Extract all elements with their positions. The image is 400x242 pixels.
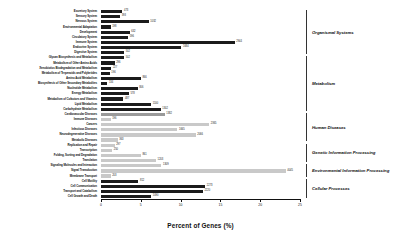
group-brackets: Organismal SystemsMetabolismHuman Diseas… xyxy=(306,9,400,199)
bar-value-label: 134 xyxy=(109,82,113,85)
bar-value-label: 296 xyxy=(116,62,120,65)
group-label: Genetic Information Processing xyxy=(312,150,375,155)
x-axis-tick xyxy=(181,199,182,202)
bar xyxy=(101,51,124,54)
bar-value-label: 1665 xyxy=(179,129,185,132)
bar-value-label: 250 xyxy=(114,149,118,152)
bar-rows: 4733931032198632596294416845025022962271… xyxy=(101,9,300,199)
bar xyxy=(101,15,120,18)
group-label: Metabolism xyxy=(312,81,335,86)
group-label: Human Diseases xyxy=(312,125,346,130)
bar xyxy=(101,138,118,141)
x-axis-tick xyxy=(141,199,142,202)
bar xyxy=(101,103,151,106)
bracket-line xyxy=(306,56,307,110)
group-bracket-item: Human Diseases xyxy=(306,113,346,142)
bar-value-label: 198 xyxy=(112,26,116,29)
bar xyxy=(101,144,115,147)
bar-value-label: 4045 xyxy=(287,170,293,173)
bar xyxy=(101,174,111,177)
group-bracket-item: Genetic Information Processing xyxy=(306,144,375,163)
x-axis-tick xyxy=(220,199,221,202)
bar-value-label: 2365 xyxy=(211,123,217,126)
bracket-line xyxy=(306,10,307,54)
bar xyxy=(101,72,110,75)
bar xyxy=(101,185,205,188)
bar-value-label: 861 xyxy=(142,154,146,157)
x-axis-tick-label: 0 xyxy=(100,203,102,207)
bar xyxy=(101,77,141,80)
bar xyxy=(101,149,112,152)
bar xyxy=(101,159,156,162)
bar-value-label: 393 xyxy=(122,15,126,18)
bar-value-label: 203 xyxy=(112,175,116,178)
x-axis-tick-label: 10 xyxy=(179,203,183,207)
bar-value-label: 2944 xyxy=(236,41,242,44)
group-label: Cellular Processes xyxy=(312,186,350,191)
bar-value-label: 1309 xyxy=(163,164,169,167)
bar-value-label: 806 xyxy=(139,87,143,90)
bar-value-label: 1100 xyxy=(153,103,158,106)
bar-value-label: 1203 xyxy=(158,159,164,162)
group-bracket-item: Cellular Processes xyxy=(306,179,350,198)
x-axis-tick xyxy=(101,199,102,202)
bar xyxy=(101,164,161,167)
bar xyxy=(101,169,286,172)
bar xyxy=(101,108,161,111)
bar xyxy=(101,92,129,95)
bar-value-label: 866 xyxy=(142,77,146,80)
group-bracket-item: Organismal Systems xyxy=(306,10,354,54)
bracket-line xyxy=(306,113,307,142)
y-axis-label: Cell Growth and Death xyxy=(0,194,99,199)
group-label: Organismal Systems xyxy=(312,30,354,35)
x-axis-tick-label: 25 xyxy=(298,203,302,207)
bar xyxy=(101,190,203,193)
bar-value-label: 1684 xyxy=(183,46,189,49)
plot-area: 4733931032198632596294416845025022962271… xyxy=(101,9,300,199)
bar xyxy=(101,82,107,85)
bar xyxy=(101,123,209,126)
x-axis-line: 0510152025 xyxy=(101,199,300,200)
x-axis-title: Percent of Genes (%) xyxy=(101,222,300,229)
bar xyxy=(101,56,124,59)
bar-value-label: 632 xyxy=(131,31,135,34)
bar xyxy=(101,46,181,49)
bar xyxy=(101,97,123,100)
bar xyxy=(101,180,138,183)
bar-value-label: 502 xyxy=(126,51,130,54)
bar xyxy=(101,128,177,131)
group-label: Environmental Information Processing xyxy=(312,168,389,173)
group-bracket-item: Environmental Information Processing xyxy=(306,164,389,177)
bar xyxy=(101,36,128,39)
x-axis-tick-label: 15 xyxy=(219,203,223,207)
bar xyxy=(101,67,111,70)
bar-value-label: 196 xyxy=(111,72,115,75)
bar-value-label: 196 xyxy=(112,118,116,121)
bar-value-label: 596 xyxy=(130,36,134,39)
bar xyxy=(101,41,235,44)
bar-value-label: 578 xyxy=(130,93,134,96)
bar xyxy=(101,20,149,23)
bar xyxy=(101,118,111,121)
bar xyxy=(101,154,141,157)
bar-value-label: 1302 xyxy=(162,108,168,111)
bar-value-label: 502 xyxy=(126,57,130,60)
bar-value-label: 812 xyxy=(140,180,144,183)
kegg-pathway-bar-chart: Excretory SystemSensory SystemNervous Sy… xyxy=(0,0,400,242)
bar xyxy=(101,87,138,90)
bar xyxy=(101,61,115,64)
bracket-line xyxy=(306,164,307,177)
bar xyxy=(101,31,130,34)
bar xyxy=(101,113,165,116)
bar xyxy=(101,25,111,28)
x-axis-tick xyxy=(300,199,301,202)
bar-value-label: 297 xyxy=(116,144,120,147)
bar xyxy=(101,10,122,13)
bar-value-label: 2273 xyxy=(207,185,213,188)
bar-value-label: 473 xyxy=(124,10,128,13)
bar-value-label: 2220 xyxy=(204,190,210,193)
bracket-line xyxy=(306,144,307,163)
bracket-line xyxy=(306,179,307,198)
group-bracket-item: Metabolism xyxy=(306,56,335,110)
x-axis-tick-label: 20 xyxy=(258,203,262,207)
